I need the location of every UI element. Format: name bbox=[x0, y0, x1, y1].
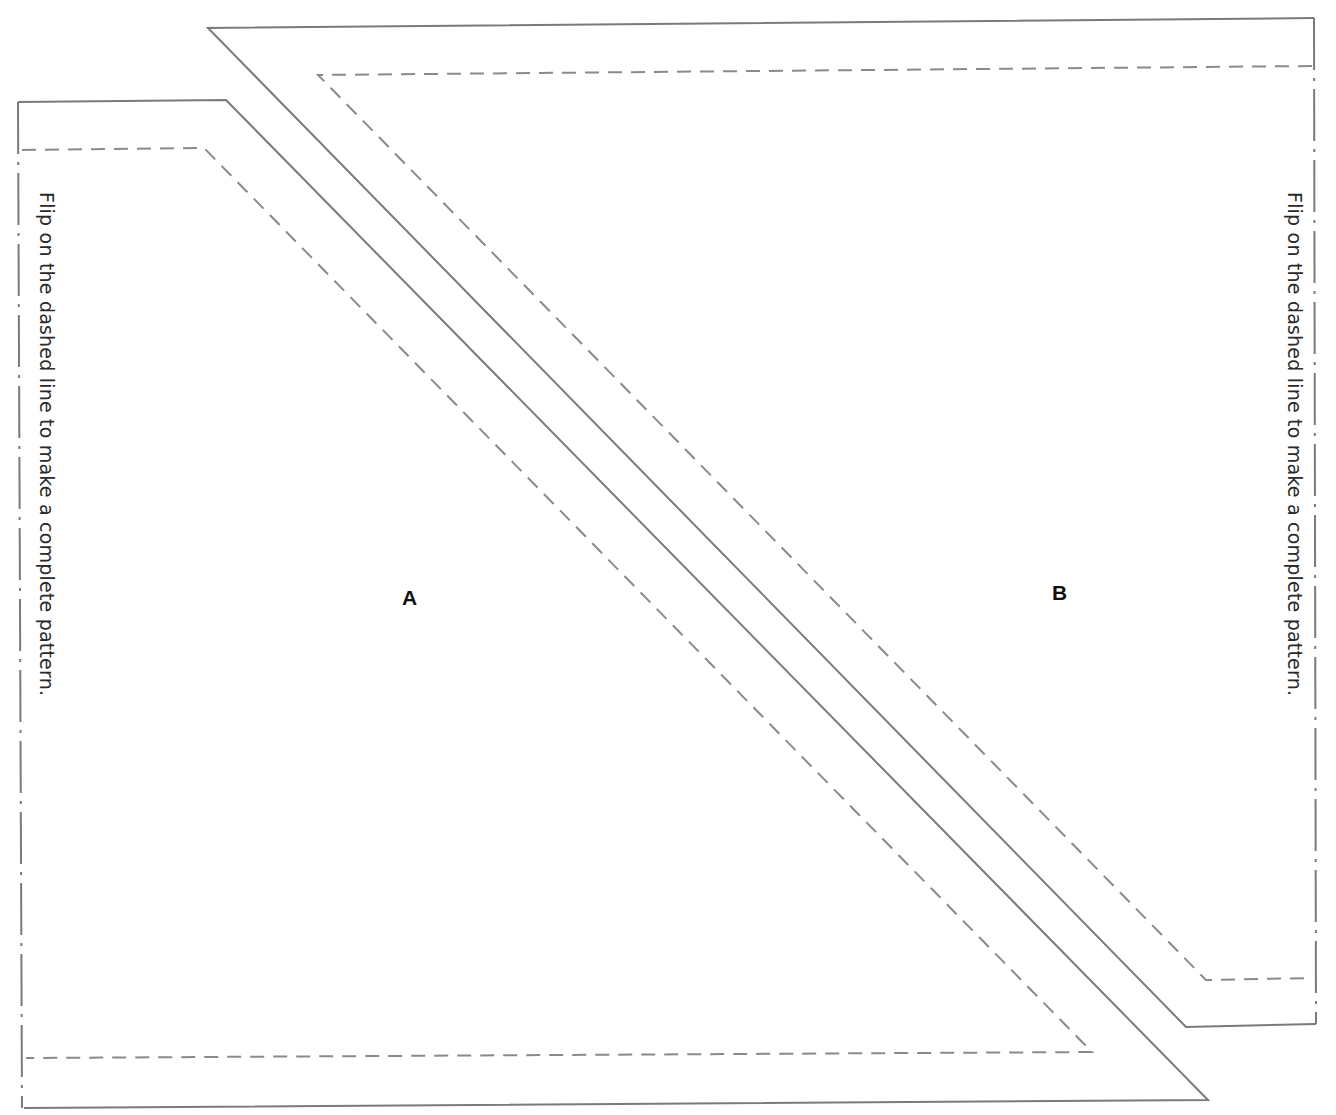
piece-b-cut-line bbox=[208, 18, 1316, 1027]
piece-a-fold-line bbox=[18, 102, 22, 1108]
piece-b-label: B bbox=[1052, 581, 1067, 605]
piece-b-fold-line bbox=[1314, 18, 1316, 1024]
piece-a bbox=[18, 100, 1208, 1108]
piece-a-label: A bbox=[402, 586, 417, 610]
piece-b-seam-line bbox=[318, 66, 1312, 980]
pattern-sheet: Flip on the dashed line to make a comple… bbox=[0, 0, 1336, 1115]
piece-a-seam-line bbox=[22, 148, 1092, 1058]
fold-instruction-left: Flip on the dashed line to make a comple… bbox=[36, 192, 58, 696]
fold-instruction-right: Flip on the dashed line to make a comple… bbox=[1284, 192, 1306, 696]
piece-a-cut-line bbox=[18, 100, 1208, 1108]
piece-b bbox=[208, 18, 1316, 1027]
pattern-drawing bbox=[0, 0, 1336, 1115]
